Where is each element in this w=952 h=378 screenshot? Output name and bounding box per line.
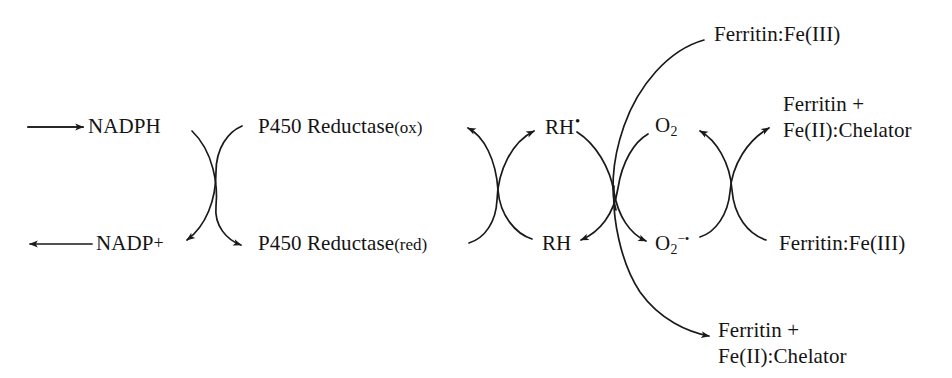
arrow-rh-to-reductase-ox <box>468 128 532 239</box>
node-superoxide-subscript: 2 <box>670 242 677 257</box>
node-ferritin-chelator-right-line1: Ferritin + <box>783 92 864 116</box>
node-rh: RH <box>542 231 571 256</box>
node-superoxide-base: O <box>655 231 670 255</box>
node-rh-radical-dot: • <box>574 113 580 129</box>
node-p450-reductase-red-name: P450 Reductase <box>258 231 394 255</box>
arrow-superoxide-to-ferritin-chelator <box>700 128 769 237</box>
node-p450-reductase-ox-name: P450 Reductase <box>258 114 394 138</box>
node-superoxide: O2−• <box>655 231 689 259</box>
node-rh-radical-base: RH <box>545 115 574 139</box>
pathway-diagram: NADPH NADP+ P450 Reductase(ox) P450 Redu… <box>0 0 952 378</box>
node-p450-reductase-ox-state: (ox) <box>394 118 422 137</box>
node-nadp-plus-charge: + <box>154 233 164 253</box>
node-ferritin-chelator-right-line2: Fe(II):Chelator <box>783 118 912 142</box>
arrow-reductase-red-to-rh-radical <box>469 131 534 243</box>
node-o2-base: O <box>655 113 670 137</box>
arrow-node-to-ferritin-chelator-bottom <box>614 186 709 336</box>
node-ferritin-chelator-right: Ferritin +Fe(II):Chelator <box>783 92 952 143</box>
node-o2-subscript: 2 <box>670 124 677 139</box>
arrow-reductase-ox-to-nadp <box>187 126 242 240</box>
node-ferritin-fe3-top: Ferritin:Fe(III) <box>714 22 840 47</box>
node-ferritin-chelator-bottom: Ferritin +Fe(II):Chelator <box>718 318 898 369</box>
node-nadp-plus: NADP+ <box>96 231 164 256</box>
node-nadp-plus-base: NADP <box>96 231 154 255</box>
node-superoxide-charge: −• <box>678 231 690 246</box>
node-ferritin-chelator-bottom-line2: Fe(II):Chelator <box>718 344 847 368</box>
node-nadph: NADPH <box>88 114 161 139</box>
node-rh-radical: RH• <box>545 113 580 140</box>
node-o2: O2 <box>655 113 678 141</box>
arrow-ferritin-fe3-to-o2 <box>700 131 766 240</box>
node-p450-reductase-red-state: (red) <box>394 235 427 254</box>
node-p450-reductase-red: P450 Reductase(red) <box>258 231 427 256</box>
arrow-rh-radical-to-superoxide <box>577 132 646 241</box>
node-p450-reductase-ox: P450 Reductase(ox) <box>258 114 422 139</box>
node-ferritin-fe3-right: Ferritin:Fe(III) <box>779 231 905 256</box>
node-ferritin-chelator-bottom-line1: Ferritin + <box>718 318 799 342</box>
